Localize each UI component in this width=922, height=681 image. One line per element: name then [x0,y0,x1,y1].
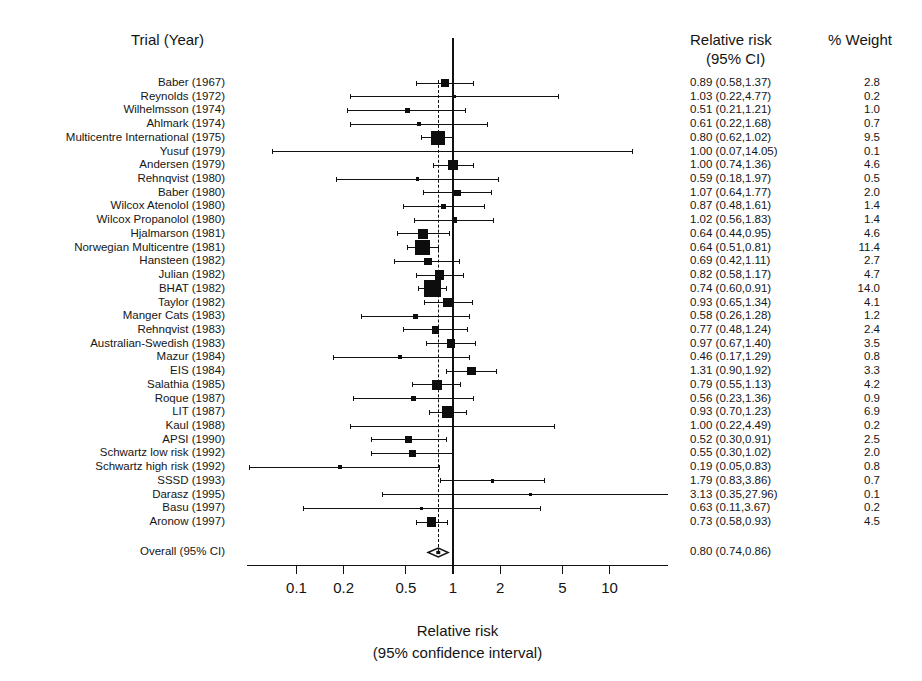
confidence-interval-cap-left [412,382,413,387]
study-estimate-box [452,217,457,222]
x-axis-tick-label: 10 [601,579,618,596]
confidence-interval-cap-left [433,163,434,168]
study-estimate-box [338,465,342,469]
x-axis-tick-label: 5 [558,579,566,596]
x-axis-tick [452,566,453,574]
confidence-interval-cap-left [350,94,351,99]
study-estimate-box [398,355,402,359]
x-axis-tick [609,566,610,574]
confidence-interval-cap-right [498,177,499,182]
confidence-interval-cap-left [382,492,383,497]
x-axis-tick-label: 1 [449,579,457,596]
x-axis-line [247,565,668,566]
confidence-interval-cap-left [416,520,417,525]
confidence-interval-cap-right [465,108,466,113]
study-estimate-box [467,367,475,375]
study-estimate-box [417,122,421,126]
study-estimate-box [452,150,455,153]
confidence-interval-cap-left [429,410,430,415]
study-estimate-box [441,204,446,209]
study-estimate-box [424,258,432,266]
confidence-interval-cap-right [491,190,492,195]
confidence-interval-cap-left [426,341,427,346]
confidence-interval-cap-left [414,218,415,223]
confidence-interval-cap-right [484,204,485,209]
confidence-interval-cap-left [407,245,408,250]
study-estimate-box [424,280,441,297]
confidence-interval-cap-right [467,327,468,332]
confidence-interval-cap-left [416,81,417,86]
x-axis-title: Relative risk [417,622,499,639]
study-estimate-box [443,298,452,307]
confidence-interval-cap-left [371,451,372,456]
study-estimate-box [409,450,416,457]
overall-diamond [426,546,450,559]
confidence-interval-cap-left [394,259,395,264]
confidence-interval-cap-right [632,149,633,154]
confidence-interval-cap-left [350,424,351,429]
x-axis-tick-label: 0.1 [286,579,307,596]
study-estimate-box [405,436,412,443]
confidence-interval-cap-right [459,259,460,264]
study-estimate-box [415,240,431,256]
confidence-interval-cap-left [350,122,351,127]
study-estimate-box [427,517,437,527]
confidence-interval-cap-right [487,122,488,127]
confidence-interval-cap-left [446,369,447,374]
confidence-interval-cap-right [460,382,461,387]
study-estimate-box [435,270,445,280]
confidence-interval-cap-left [353,396,354,401]
confidence-interval-cap-right [439,465,440,470]
confidence-interval-cap-right [475,341,476,346]
confidence-interval-cap-left [361,314,362,319]
confidence-interval-cap-right [453,451,454,456]
confidence-interval-cap-left [397,231,398,236]
study-estimate-box [413,314,418,319]
forest-plot-figure: Trial (Year) Relative risk (95% CI) % We… [0,0,922,681]
study-estimate-box [432,380,441,389]
x-axis-tick [562,566,563,574]
x-axis-tick-label: 0.5 [395,579,416,596]
confidence-interval-cap-right [558,94,559,99]
study-estimate-box [442,406,454,418]
confidence-interval-cap-left [403,327,404,332]
confidence-interval-line [249,467,440,468]
confidence-interval-cap-right [473,396,474,401]
x-axis-tick [296,566,297,574]
confidence-interval-line [382,494,668,495]
confidence-interval-cap-right [472,300,473,305]
study-estimate-box [432,326,439,333]
forest-plot-canvas [0,0,922,681]
study-estimate-box [441,79,449,87]
x-axis-tick [343,566,344,574]
confidence-interval-cap-left [371,437,372,442]
study-estimate-box [431,131,445,145]
confidence-interval-cap-left [333,355,334,360]
confidence-interval-cap-left [421,135,422,140]
confidence-interval-cap-left [336,177,337,182]
confidence-interval-cap-left [423,190,424,195]
study-estimate-box [416,177,419,180]
confidence-interval-cap-left [416,273,417,278]
confidence-interval-cap-right [453,135,454,140]
study-estimate-box [452,425,455,428]
confidence-interval-cap-left [347,108,348,113]
confidence-interval-cap-left [418,286,419,291]
x-axis-tick-label: 2 [496,579,504,596]
confidence-interval-cap-right [447,520,448,525]
confidence-interval-cap-left [424,300,425,305]
confidence-interval-cap-left [403,204,404,209]
confidence-interval-cap-right [438,245,439,250]
confidence-interval-cap-right [446,286,447,291]
x-axis-tick-label: 0.2 [333,579,354,596]
study-estimate-box [420,507,423,510]
study-estimate-box [405,108,410,113]
confidence-interval-cap-right [554,424,555,429]
confidence-interval-cap-right [446,437,447,442]
confidence-interval-cap-left [303,506,304,511]
study-estimate-box [491,479,495,483]
confidence-interval-cap-right [540,506,541,511]
confidence-interval-cap-left [440,478,441,483]
confidence-interval-cap-right [469,314,470,319]
x-axis-tick [405,566,406,574]
